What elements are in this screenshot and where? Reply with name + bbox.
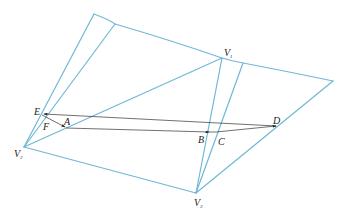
crease-v1-v3 <box>196 58 222 193</box>
labels: V1 V2 V3 E F A B C D <box>14 47 281 209</box>
label-v3: V3 <box>194 197 203 209</box>
left-edge <box>24 14 94 147</box>
top-edge-left <box>94 14 333 81</box>
label-a: A <box>63 116 71 127</box>
label-d: D <box>272 115 281 126</box>
bottom-edge <box>24 147 196 193</box>
label-c: C <box>218 136 225 147</box>
label-e: E <box>33 106 40 117</box>
label-v2: V2 <box>14 148 23 160</box>
crease-v2-v1 <box>24 58 222 147</box>
surface-outline <box>24 14 333 193</box>
crease-left <box>24 24 115 147</box>
diagram-canvas: V1 V2 V3 E F A B C D <box>0 0 347 218</box>
label-f: F <box>42 121 50 132</box>
ray-a-b <box>66 128 209 132</box>
label-b: B <box>198 134 204 145</box>
creases <box>24 24 243 193</box>
ray-c-d <box>216 126 276 132</box>
label-v1: V1 <box>224 47 233 59</box>
ray-d-e <box>44 114 276 126</box>
